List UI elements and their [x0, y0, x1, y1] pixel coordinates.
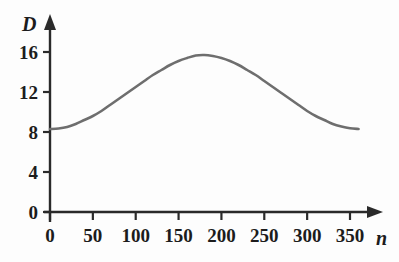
x-tick-label: 250: [250, 226, 279, 245]
x-axis-label: n: [376, 228, 387, 248]
y-tick-label: 8: [8, 123, 38, 142]
y-tick-label: 16: [8, 43, 38, 62]
axes-group: [44, 14, 383, 222]
y-axis-label: D: [22, 14, 36, 34]
y-tick-label: 0: [8, 203, 38, 222]
x-tick-label: 150: [164, 226, 193, 245]
x-tick-label: 300: [293, 226, 322, 245]
data-series-curve: [50, 55, 359, 129]
y-tick-label: 12: [8, 83, 38, 102]
y-axis-arrowhead: [44, 14, 56, 30]
plot-area: [0, 0, 399, 262]
x-tick-label: 350: [336, 226, 365, 245]
x-tick-label: 200: [207, 226, 236, 245]
x-axis-arrowhead: [367, 206, 383, 218]
x-tick-label: 50: [83, 226, 102, 245]
x-tick-label: 100: [121, 226, 150, 245]
y-tick-label: 4: [8, 163, 38, 182]
x-tick-label: 0: [45, 226, 55, 245]
chart-container: 0481216 050100150200250300350 D n: [0, 0, 399, 262]
